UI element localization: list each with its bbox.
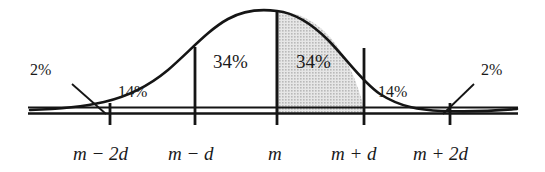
leader-line-left-tail bbox=[72, 84, 106, 114]
bell-curve-path bbox=[30, 10, 517, 111]
axis-label-m: m bbox=[268, 144, 282, 163]
leader-line-right-tail bbox=[443, 84, 474, 114]
percent-label-left-tail: 2% bbox=[30, 62, 51, 78]
percent-label-left-outer: 14% bbox=[118, 84, 147, 100]
percent-label-right-tail: 2% bbox=[481, 62, 502, 78]
axis-label-m-minus-d: m − d bbox=[168, 144, 214, 163]
percent-label-left-inner: 34% bbox=[213, 52, 248, 71]
axis-label-m-minus-2d: m − 2d bbox=[73, 144, 128, 163]
axis-label-m-plus-d: m + d bbox=[331, 144, 377, 163]
normal-distribution-figure: 2% 14% 34% 34% 14% 2% m − 2d m − d m m +… bbox=[0, 0, 545, 172]
percent-label-right-outer: 14% bbox=[378, 84, 407, 100]
percent-label-right-inner: 34% bbox=[296, 52, 331, 71]
axis-label-m-plus-2d: m + 2d bbox=[413, 144, 468, 163]
